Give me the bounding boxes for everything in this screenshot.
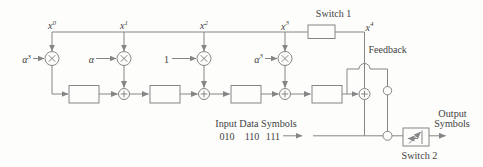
coefficient-alpha3-1: α3 xyxy=(22,53,31,66)
shift-register-box-4 xyxy=(312,86,342,104)
rail-label-x2: x2 xyxy=(199,19,208,32)
switch1-label: Switch 1 xyxy=(316,8,351,19)
encoder-diagram: x0 x1 x2 x3 x4 α3 α 1 α3 xyxy=(0,0,483,167)
rail-right-segment-x4-drop xyxy=(335,32,365,89)
shift-register-box-2 xyxy=(150,86,180,104)
multiplier-icon-4 xyxy=(278,52,292,66)
coefficient-one: 1 xyxy=(164,54,169,65)
output-label-line2: Symbols xyxy=(434,118,470,129)
coefficient-alpha3-2: α3 xyxy=(254,52,263,65)
rail-label-x0: x0 xyxy=(47,19,56,32)
switch2-label: Switch 2 xyxy=(402,150,438,161)
coefficient-alpha: α xyxy=(89,54,95,65)
input-data-sequence: 010110111 xyxy=(220,131,281,142)
multiplier-icon-2 xyxy=(117,52,131,66)
input-data-title: Input Data Symbols xyxy=(215,118,297,129)
shift-register-box-3 xyxy=(231,86,261,104)
adder-icon-4 xyxy=(359,89,370,100)
rail-label-x1: x1 xyxy=(119,19,128,32)
multiplier-icon-1 xyxy=(45,52,59,66)
shift-register-box-1 xyxy=(69,86,99,104)
mult1-to-register1 xyxy=(52,66,68,95)
adder-icon-3 xyxy=(280,89,291,100)
switch2-upper-contact-node xyxy=(383,87,391,95)
multiplier-icon-3 xyxy=(197,52,211,66)
feedback-rail xyxy=(52,32,365,89)
rail-label-x4: x4 xyxy=(365,20,374,33)
adder-icon-2 xyxy=(199,89,210,100)
rail-label-x3: x3 xyxy=(280,19,289,32)
rs-encoder-figure: x0 x1 x2 x3 x4 α3 α 1 α3 xyxy=(0,0,483,167)
feedback-label: Feedback xyxy=(369,44,407,55)
switch1-box xyxy=(308,25,335,39)
adder-icon-1 xyxy=(119,89,130,100)
switch2-lower-contact-node xyxy=(383,131,392,140)
